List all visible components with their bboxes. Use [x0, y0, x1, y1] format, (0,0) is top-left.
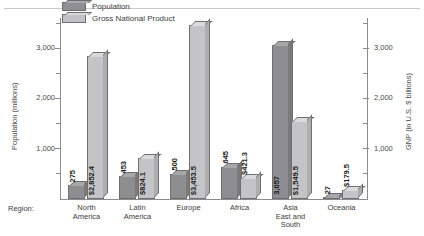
plot-area: 1,0002,0003,000 1,0002,0003,000 275$2,85…: [60, 18, 368, 200]
bar-value-label: 275: [68, 170, 85, 183]
bar-series-container: 275$2,852.4453$824.1500$3,453.5645$421.3…: [61, 18, 367, 199]
bar-value-label: $179.5: [342, 164, 359, 187]
bar-pop[interactable]: 3,057: [272, 45, 289, 199]
bar-group: 645$421.3: [214, 18, 265, 199]
bar-pop[interactable]: 500: [170, 174, 187, 199]
bar-value-label: 3,057: [272, 176, 289, 195]
left-axis-title: Population (millions): [10, 82, 19, 150]
bar-pop[interactable]: 453: [119, 176, 136, 199]
bar-pop[interactable]: 645: [221, 167, 238, 199]
bar-gnp[interactable]: $179.5: [342, 190, 359, 199]
bar-value-label: 645: [221, 151, 238, 164]
x-axis-category-label: Oceania: [316, 204, 367, 213]
bar-group: 453$824.1: [112, 18, 163, 199]
right-axis-title: GNP (in U.S. $ billions): [404, 73, 413, 150]
bar-gnp[interactable]: $421.3: [240, 178, 257, 199]
x-axis-label: Region:: [8, 204, 34, 213]
legend-label-population: Population: [92, 2, 130, 11]
bar-value-label: 500: [170, 158, 187, 171]
right-axis-tick-label: 1,000: [374, 144, 393, 153]
bar-value-label: $824.1: [138, 172, 155, 195]
left-axis-tick-label: 2,000: [36, 93, 55, 102]
bar-value-label: $3,453.5: [189, 166, 206, 195]
bar-group: 27$179.5: [316, 18, 367, 199]
left-axis-tick-label: 1,000: [36, 144, 55, 153]
x-axis-category-label: Asia East and South: [265, 204, 316, 230]
bar-value-label: $421.3: [240, 152, 257, 175]
bar-gnp[interactable]: $3,453.5: [189, 25, 206, 199]
right-axis-tick-label: 3,000: [374, 43, 393, 52]
x-axis-category-label: North America: [61, 204, 112, 221]
x-axis-category-label: Latin America: [112, 204, 163, 221]
chart-legend: Population Gross National Product: [62, 2, 175, 23]
legend-swatch-population: [62, 2, 86, 11]
bar-group: 500$3,453.5: [163, 18, 214, 199]
chart-figure: 1,0002,0003,000 1,0002,0003,000 275$2,85…: [0, 0, 424, 236]
legend-item-population: Population: [62, 2, 175, 11]
x-axis-baseline: [60, 199, 368, 200]
bar-value-label: $2,852.4: [87, 166, 104, 195]
bar-pop[interactable]: 27: [323, 197, 340, 199]
bar-side-face: [256, 171, 261, 198]
bar-value-label: $1,549.5: [291, 166, 308, 195]
x-axis-category-label: Europe: [163, 204, 214, 213]
legend-swatch-gnp: [62, 14, 86, 23]
left-axis-tick-label: 3,000: [36, 43, 55, 52]
bar-value-label: 27: [323, 186, 340, 194]
right-axis-tick-label: 2,000: [374, 93, 393, 102]
bar-gnp[interactable]: $824.1: [138, 158, 155, 199]
x-axis-category-label: Africa: [214, 204, 265, 213]
bar-gnp[interactable]: $1,549.5: [291, 121, 308, 199]
bar-value-label: 453: [119, 161, 136, 174]
legend-label-gnp: Gross National Product: [92, 14, 175, 23]
bar-group: 275$2,852.4: [61, 18, 112, 199]
legend-item-gnp: Gross National Product: [62, 14, 175, 23]
bar-gnp[interactable]: $2,852.4: [87, 56, 104, 199]
bar-group: 3,057$1,549.5: [265, 18, 316, 199]
bar-pop[interactable]: 275: [68, 185, 85, 199]
